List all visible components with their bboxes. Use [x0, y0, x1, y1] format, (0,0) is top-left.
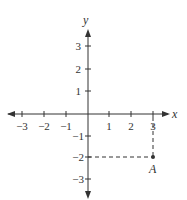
- x-tick-label: 3: [150, 120, 156, 132]
- x-axis-label: x: [171, 107, 178, 121]
- x-tick-label: −1: [60, 120, 72, 132]
- y-tick-label: −1: [72, 130, 84, 142]
- x-tick-label: −3: [16, 120, 28, 132]
- coordinate-plane-diagram: x y −3 −2 −1 1 2 3 3 2 1 −1 −2 −3 A: [0, 0, 187, 200]
- y-tick-label: −3: [72, 173, 84, 185]
- x-arrow-left-icon: [7, 111, 15, 117]
- y-tick-label: 2: [76, 63, 82, 75]
- x-tick-label: −2: [38, 120, 50, 132]
- x-arrow-right-icon: [162, 111, 170, 117]
- plane-svg: x y −3 −2 −1 1 2 3 3 2 1 −1 −2 −3 A: [0, 0, 187, 200]
- x-tick-label: 2: [128, 120, 134, 132]
- y-tick-label: 3: [76, 40, 82, 52]
- y-axis-label: y: [82, 13, 89, 27]
- y-arrow-down-icon: [85, 191, 91, 199]
- y-arrow-up-icon: [85, 29, 91, 37]
- y-tick-label: −2: [72, 151, 84, 163]
- point-a-marker: [151, 155, 155, 159]
- x-tick-label: 1: [106, 120, 112, 132]
- y-tick-label: 1: [76, 85, 82, 97]
- point-a-label: A: [148, 162, 157, 176]
- dashed-guides: [88, 117, 153, 157]
